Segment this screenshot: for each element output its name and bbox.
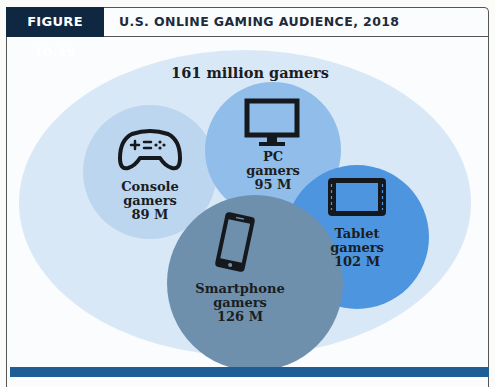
tablet-label-gamers: gamers xyxy=(307,241,407,255)
pc-label-gamers: gamers xyxy=(223,164,323,178)
console-value: 89 M xyxy=(100,208,200,222)
console-label: Console gamers 89 M xyxy=(100,180,200,222)
smartphone-label-gamers: gamers xyxy=(180,296,300,310)
total-gamers-label: 161 million gamers xyxy=(120,64,380,81)
pc-value: 95 M xyxy=(223,178,323,192)
console-label-name: Console xyxy=(100,180,200,194)
pc-label: PC gamers 95 M xyxy=(223,150,323,192)
smartphone-value: 126 M xyxy=(180,310,300,324)
tablet-icon xyxy=(328,178,386,216)
tablet-label: Tablet gamers 102 M xyxy=(307,227,407,269)
tablet-label-name: Tablet xyxy=(307,227,407,241)
smartphone-label-name: Smartphone xyxy=(180,282,300,296)
footer-bar xyxy=(10,367,489,377)
console-label-gamers: gamers xyxy=(100,194,200,208)
pc-label-name: PC xyxy=(223,150,323,164)
smartphone-label: Smartphone gamers 126 M xyxy=(180,282,300,324)
tablet-value: 102 M xyxy=(307,255,407,269)
